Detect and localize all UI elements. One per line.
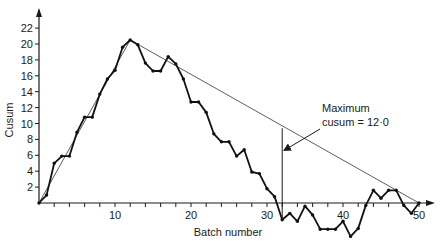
x-tick-label: 30 [261, 209, 273, 221]
data-point [167, 55, 170, 58]
data-point [250, 170, 253, 173]
data-point [83, 115, 86, 118]
data-point [212, 132, 215, 135]
data-point [106, 77, 109, 80]
data-point [402, 204, 405, 207]
cusum-chart: 2468101214161820221020304050 Maximum cus… [0, 0, 440, 241]
data-point [98, 92, 101, 95]
data-point [60, 154, 63, 157]
data-point [45, 193, 48, 196]
arrow [284, 129, 320, 151]
data-point [417, 201, 420, 204]
y-tick-label: 20 [21, 38, 33, 50]
data-point [136, 43, 139, 46]
x-axis-arrow-icon [426, 200, 435, 206]
data-point [151, 69, 154, 72]
cusum-line [39, 40, 419, 236]
data-point [129, 38, 132, 41]
y-tick-label: 10 [21, 118, 33, 130]
y-tick-label: 16 [21, 70, 33, 82]
data-point [303, 204, 306, 207]
y-tick-label: 2 [27, 181, 33, 193]
annotation-line-2: cusum = 12·0 [322, 116, 389, 128]
data-point [387, 189, 390, 192]
x-tick-label: 50 [413, 209, 425, 221]
y-tick-label: 18 [21, 54, 33, 66]
cusum-series [37, 38, 420, 238]
annotation: Maximum cusum = 12·0 [282, 102, 389, 220]
y-tick-label: 14 [21, 86, 33, 98]
data-point [174, 62, 177, 65]
data-point [53, 162, 56, 165]
data-point [159, 69, 162, 72]
y-tick-label: 12 [21, 102, 33, 114]
x-tick-label: 20 [185, 209, 197, 221]
data-point [182, 77, 185, 80]
y-tick-label: 8 [27, 133, 33, 145]
data-point [227, 140, 230, 143]
data-point [265, 187, 268, 190]
data-point [91, 115, 94, 118]
data-point [113, 69, 116, 72]
data-point [37, 201, 40, 204]
data-point [395, 189, 398, 192]
data-point [243, 148, 246, 151]
data-point [349, 235, 352, 238]
data-point [372, 189, 375, 192]
x-axis-label: Batch number [194, 226, 263, 238]
data-point [189, 100, 192, 103]
data-point [273, 195, 276, 198]
data-point [75, 131, 78, 134]
y-tick-label: 22 [21, 22, 33, 34]
data-point [68, 154, 71, 157]
data-point [379, 197, 382, 200]
data-point [311, 213, 314, 216]
data-point [258, 172, 261, 175]
data-point [410, 212, 413, 215]
y-tick-label: 4 [27, 165, 33, 177]
data-point [364, 204, 367, 207]
x-tick-label: 40 [337, 209, 349, 221]
data-point [334, 228, 337, 231]
data-point [220, 140, 223, 143]
data-point [205, 111, 208, 114]
data-point [197, 100, 200, 103]
data-point [357, 227, 360, 230]
data-point [319, 228, 322, 231]
data-point [235, 154, 238, 157]
annotation-line-1: Maximum [322, 102, 370, 114]
data-point [296, 220, 299, 223]
x-tick-label: 10 [109, 209, 121, 221]
data-point [121, 45, 124, 48]
y-axis-arrow-icon [36, 8, 42, 17]
data-point [326, 228, 329, 231]
y-axis-label: Cusum [3, 103, 15, 138]
data-point [341, 220, 344, 223]
y-tick-label: 6 [27, 149, 33, 161]
data-point [144, 61, 147, 64]
data-point [288, 212, 291, 215]
